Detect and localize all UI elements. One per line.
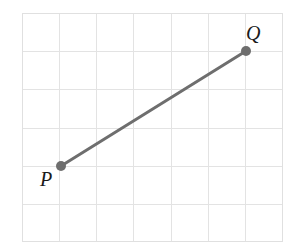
point-label-p: P bbox=[40, 169, 52, 189]
endpoint-q-dot bbox=[241, 46, 251, 56]
point-label-q: Q bbox=[246, 23, 260, 43]
grid-plot-area bbox=[22, 13, 283, 242]
figure-canvas: P Q bbox=[0, 0, 298, 250]
segment-stroke bbox=[61, 51, 246, 166]
line-segment-pq bbox=[22, 13, 283, 242]
endpoint-p-dot bbox=[56, 161, 66, 171]
